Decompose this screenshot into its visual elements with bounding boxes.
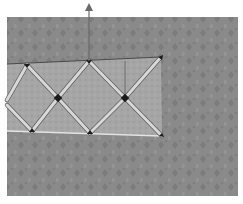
truss-photo-figure — [0, 0, 243, 204]
